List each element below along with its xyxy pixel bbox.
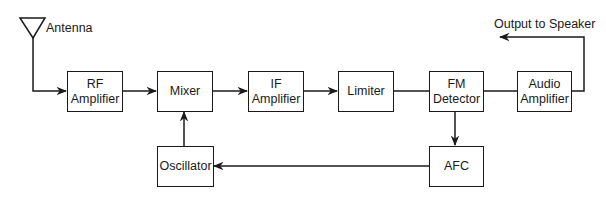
audio-amplifier-block: Audio Amplifier xyxy=(517,71,572,112)
oscillator-block: Oscillator xyxy=(157,146,214,187)
fm-detector-block: FM Detector xyxy=(429,71,484,112)
antenna-connector xyxy=(33,38,66,91)
output-label: Output to Speaker xyxy=(494,17,595,31)
antenna-label: Antenna xyxy=(46,21,93,35)
antenna-icon xyxy=(20,18,45,38)
rf-amplifier-block: RF Amplifier xyxy=(67,71,123,112)
if-amplifier-block: IF Amplifier xyxy=(248,71,304,112)
afc-block: AFC xyxy=(429,146,484,187)
mixer-block: Mixer xyxy=(157,71,213,112)
limiter-block: Limiter xyxy=(338,71,394,112)
